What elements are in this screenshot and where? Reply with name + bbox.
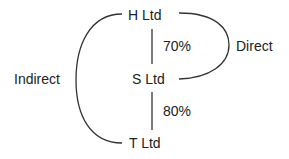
edge-label-h-s: 70% [163,38,191,54]
annotation-direct: Direct [236,38,273,54]
edge-label-s-t: 80% [163,103,191,119]
node-s-ltd: S Ltd [132,71,165,87]
node-t-ltd: T Ltd [129,135,161,151]
indirect-arc [76,14,122,143]
node-h-ltd: H Ltd [128,7,161,23]
annotation-indirect: Indirect [14,71,60,87]
